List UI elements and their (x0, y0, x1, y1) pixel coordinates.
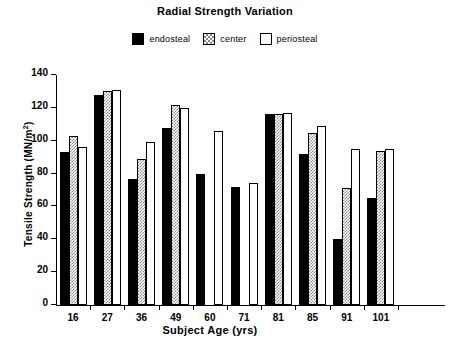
y-axis-tick-label: 80 (37, 166, 48, 177)
legend-item-periosteal: periosteal (260, 33, 318, 45)
bar-center-85 (308, 133, 317, 306)
bar-periosteal-91 (351, 149, 360, 305)
bar-endosteal-16 (60, 152, 69, 305)
y-axis-label: Tensile Strength (MN/m2) (22, 84, 34, 284)
y-axis-tick: 20 (51, 271, 56, 272)
y-axis-tick-label: 100 (31, 133, 48, 144)
x-axis-tick (330, 305, 331, 310)
legend-swatch-endosteal (132, 33, 144, 45)
bar-periosteal-60 (214, 131, 223, 305)
y-axis-tick: 120 (51, 107, 56, 108)
bar-center-101 (376, 151, 385, 305)
y-axis-tick: 40 (51, 238, 56, 239)
x-axis-tick (295, 305, 296, 310)
x-axis-tick-label: 27 (102, 312, 113, 323)
x-axis-tick-label: 101 (373, 312, 390, 323)
x-axis-tick-label: 36 (136, 312, 147, 323)
bar-endosteal-49 (162, 128, 171, 305)
plot-area: 020406080100120140162736496071818591101 (56, 75, 398, 305)
y-axis-label-exponent: 2 (22, 125, 29, 129)
bar-endosteal-27 (94, 95, 103, 305)
bar-endosteal-81 (265, 114, 274, 305)
x-axis-tick (398, 305, 399, 310)
y-axis-tick-label: 0 (42, 297, 48, 308)
bar-endosteal-91 (333, 239, 342, 305)
bar-periosteal-81 (283, 113, 292, 305)
legend-swatch-periosteal (260, 33, 272, 45)
y-axis-tick-label: 120 (31, 100, 48, 111)
y-axis-tick: 80 (51, 173, 56, 174)
y-axis-tick: 140 (51, 74, 56, 75)
legend-item-endosteal: endosteal (132, 33, 190, 45)
legend-label-endosteal: endosteal (149, 34, 190, 44)
y-axis-tick-label: 20 (37, 264, 48, 275)
legend-label-center: center (220, 34, 246, 44)
bar-periosteal-49 (180, 108, 189, 305)
x-axis-tick (227, 305, 228, 310)
chart-legend: endosteal center periosteal (0, 33, 450, 45)
y-axis-tick-label: 60 (37, 198, 48, 209)
legend-item-center: center (203, 33, 246, 45)
y-axis-tick: 60 (51, 205, 56, 206)
bar-periosteal-27 (112, 90, 121, 305)
bar-endosteal-36 (128, 179, 137, 306)
y-axis-tick: 0 (51, 304, 56, 305)
y-axis-tick-label: 140 (31, 67, 48, 78)
x-axis-tick (261, 305, 262, 310)
chart-title: Radial Strength Variation (0, 5, 450, 17)
x-axis-tick (124, 305, 125, 310)
legend-swatch-center (203, 33, 215, 45)
y-axis-tick: 100 (51, 140, 56, 141)
bar-periosteal-36 (146, 142, 155, 305)
x-axis-spine (56, 305, 445, 306)
bar-endosteal-85 (299, 154, 308, 305)
x-axis-tick-label: 71 (239, 312, 250, 323)
y-axis-label-base: Tensile Strength (MN/m (23, 129, 34, 247)
bar-center-16 (69, 136, 78, 305)
x-axis-tick-label: 81 (273, 312, 284, 323)
bar-endosteal-101 (367, 198, 376, 305)
bar-center-36 (137, 159, 146, 305)
legend-label-periosteal: periosteal (277, 34, 318, 44)
y-axis-tick-label: 40 (37, 231, 48, 242)
x-axis-tick-label: 49 (170, 312, 181, 323)
bar-periosteal-85 (317, 126, 326, 305)
x-axis-tick (364, 305, 365, 310)
x-axis-tick-label: 91 (341, 312, 352, 323)
x-axis-tick (90, 305, 91, 310)
bar-endosteal-60 (196, 174, 205, 305)
bar-center-91 (342, 188, 351, 305)
bar-center-81 (274, 114, 283, 305)
bar-periosteal-16 (78, 147, 87, 305)
bar-periosteal-101 (385, 149, 394, 305)
x-axis-tick (193, 305, 194, 310)
bar-center-27 (103, 91, 112, 305)
chart-container: Radial Strength Variation endosteal cent… (0, 0, 450, 347)
x-axis-tick-label: 85 (307, 312, 318, 323)
bar-periosteal-71 (249, 183, 258, 305)
x-axis-label: Subject Age (yrs) (0, 324, 420, 336)
bar-center-49 (171, 105, 180, 305)
bar-endosteal-71 (231, 187, 240, 305)
x-axis-tick (159, 305, 160, 310)
y-axis-spine (56, 75, 57, 305)
y-axis-label-close: ) (23, 121, 34, 125)
x-axis-tick-label: 60 (204, 312, 215, 323)
x-axis-tick-label: 16 (68, 312, 79, 323)
